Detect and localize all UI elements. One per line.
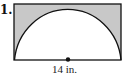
center-point xyxy=(66,57,70,61)
diameter-label: 14 in. xyxy=(52,64,77,75)
